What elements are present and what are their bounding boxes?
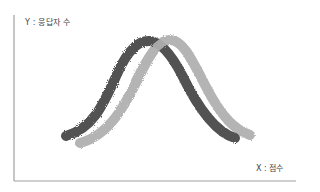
- y-axis-label: Y : 응답자 수: [25, 16, 70, 27]
- x-axis-label: X : 점수: [256, 162, 283, 173]
